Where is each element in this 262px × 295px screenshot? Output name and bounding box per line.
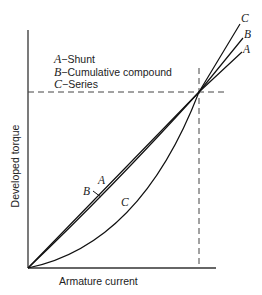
legend-key-c: C <box>54 77 62 91</box>
legend-item-b: B−Cumulative compound <box>54 66 172 79</box>
legend-label-c: Series <box>68 78 98 90</box>
y-axis-label: Developed torque <box>9 125 21 208</box>
curve-mid-label-c: C <box>121 196 129 208</box>
curve-end-label-a: A <box>243 43 250 55</box>
curve-end-label-b: B <box>244 28 251 40</box>
x-axis-label: Armature current <box>59 275 138 287</box>
legend-item-c: C−Series <box>54 78 172 91</box>
legend-label-b: Cumulative compound <box>67 66 171 78</box>
curve-mid-label-a: A <box>98 174 105 186</box>
legend-label-a: Shunt <box>67 53 94 65</box>
legend: A−Shunt B−Cumulative compound C−Series <box>54 53 172 91</box>
diagram-canvas <box>0 0 262 295</box>
curve-end-label-c: C <box>241 12 249 24</box>
torque-current-diagram: A−Shunt B−Cumulative compound C−Series C… <box>0 0 262 295</box>
curve-mid-label-b: B <box>83 185 90 197</box>
legend-item-a: A−Shunt <box>54 53 172 66</box>
